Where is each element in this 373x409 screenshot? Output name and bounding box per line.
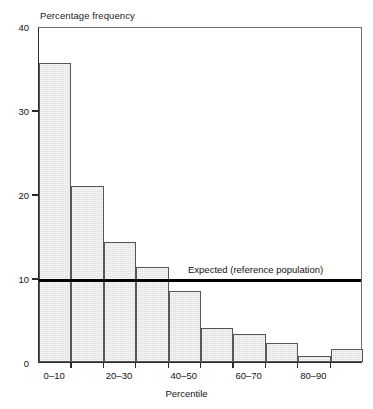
- x-axis-tick: [70, 363, 71, 368]
- reference-line-label: Expected (reference population): [188, 264, 323, 275]
- y-axis-title: Percentage frequency: [40, 10, 135, 21]
- bar: [201, 328, 233, 362]
- bar: [298, 356, 330, 362]
- x-axis-tick-label: 0–10: [44, 370, 65, 381]
- bar: [266, 343, 298, 362]
- bar: [331, 349, 363, 362]
- x-axis-tick: [200, 363, 201, 368]
- x-axis-tick: [265, 363, 266, 368]
- bar: [71, 186, 103, 362]
- bar: [39, 63, 71, 362]
- x-axis-tick: [297, 363, 298, 368]
- x-axis-tick: [103, 363, 104, 368]
- bar: [233, 334, 265, 362]
- y-axis-tick-label: 20: [0, 190, 29, 201]
- y-axis-tick-label: 0: [0, 358, 29, 369]
- y-axis-tick-label: 30: [0, 106, 29, 117]
- x-axis-tick-label: 20–30: [106, 370, 132, 381]
- x-axis-tick: [330, 363, 331, 368]
- x-axis-tick: [135, 363, 136, 368]
- x-axis-title: Percentile: [0, 388, 373, 399]
- y-axis-tick-label: 10: [0, 274, 29, 285]
- bar: [104, 242, 136, 362]
- bar-series: [39, 28, 361, 362]
- histogram-figure: Percentage frequency 010203040 Expected …: [0, 0, 373, 409]
- plot-area: [38, 27, 362, 363]
- x-axis-tick: [232, 363, 233, 368]
- x-axis-tick-label: 80–90: [300, 370, 326, 381]
- bar: [169, 291, 201, 362]
- y-axis-tick-label: 40: [0, 22, 29, 33]
- x-axis-tick-label: 60–70: [235, 370, 261, 381]
- x-axis-tick: [168, 363, 169, 368]
- x-axis-tick-label: 40–50: [171, 370, 197, 381]
- reference-line: [39, 279, 361, 282]
